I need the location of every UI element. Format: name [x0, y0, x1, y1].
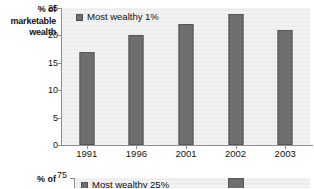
bar-slot-2001 — [161, 8, 211, 145]
chart2-y-axis-title: % of — [0, 174, 56, 185]
bar-slot-1996 — [112, 8, 162, 145]
chart-most-wealthy-1-percent: % of marketable wealth 25 20 15 10 — [0, 0, 314, 163]
chart2-plot-area: Most wealthy 25% — [75, 178, 310, 188]
x-axis-label-1991: 1991 — [76, 148, 97, 159]
x-axis-label-2002: 2002 — [225, 148, 246, 159]
plot-area: 25 20 15 10 5 0 — [62, 8, 310, 145]
y-tick-label: 15 — [48, 58, 58, 67]
chart2-legend-label: Most wealthy 25% — [92, 180, 169, 188]
bar-1996[interactable] — [129, 35, 144, 145]
bar-slot-2002 — [211, 8, 261, 145]
x-axis-line — [61, 145, 313, 146]
y-tick-label: 0 — [53, 141, 58, 150]
chart2-legend: Most wealthy 25% — [81, 180, 169, 188]
y-tick-mark — [58, 145, 62, 146]
chart2-bar-partial[interactable] — [228, 178, 244, 188]
chart-page: % of marketable wealth 25 20 15 10 — [0, 0, 314, 188]
x-axis-label-2003: 2003 — [275, 148, 296, 159]
y-tick-label: 20 — [48, 31, 58, 40]
chart2-y-tick-label: 75 — [57, 170, 67, 180]
bar-series — [62, 8, 310, 145]
bar-2003[interactable] — [278, 30, 293, 145]
bar-2001[interactable] — [178, 24, 193, 145]
legend-swatch-icon — [81, 182, 88, 189]
bar-slot-2003 — [260, 8, 310, 145]
bar-1991[interactable] — [79, 52, 94, 145]
x-axis-label-1996: 1996 — [126, 148, 147, 159]
chart-most-wealthy-25-percent: % of 75 Most wealthy 25% — [0, 166, 314, 188]
y-axis-title-line-2: marketable — [0, 16, 56, 28]
y-tick-label: 10 — [48, 86, 58, 95]
y-tick-label: 5 — [53, 113, 58, 122]
y-tick-label: 25 — [48, 4, 58, 13]
bar-2002[interactable] — [228, 14, 243, 146]
x-axis-label-2001: 2001 — [175, 148, 196, 159]
bar-slot-1991 — [62, 8, 112, 145]
